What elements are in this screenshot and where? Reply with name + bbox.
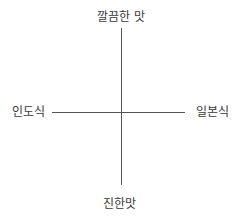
vertical-axis xyxy=(121,28,122,185)
bottom-label: 진한맛 xyxy=(103,197,136,211)
top-label: 깔끔한 맛 xyxy=(97,10,145,24)
right-label: 일본식 xyxy=(196,105,229,119)
left-label: 인도식 xyxy=(12,105,45,119)
horizontal-axis xyxy=(52,112,185,113)
